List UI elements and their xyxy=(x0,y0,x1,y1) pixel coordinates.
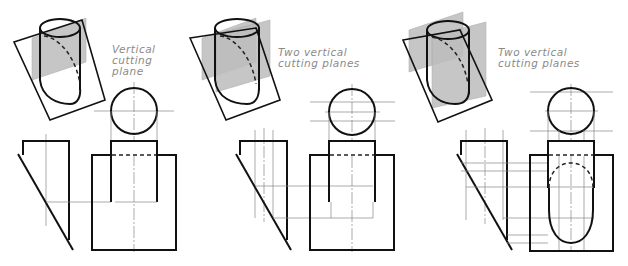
fig2-top-view xyxy=(310,84,395,252)
fig3-front-view xyxy=(530,141,613,251)
fig1-caption-line-2: cutting xyxy=(112,55,152,65)
fig3-caption-line-2: cutting planes xyxy=(498,58,580,68)
fig1-caption-line-3: plane xyxy=(112,66,144,76)
fig3-pictorial xyxy=(403,12,492,122)
fig1-cut-ellipse xyxy=(40,80,80,104)
fig2-caption-line-1: Two vertical xyxy=(278,47,347,57)
fig3-top-view xyxy=(530,84,613,252)
fig1-side-view xyxy=(18,134,111,250)
fig2-caption-line-2: cutting planes xyxy=(278,58,360,68)
fig1-top-view xyxy=(94,82,174,252)
fig1-pictorial xyxy=(14,18,105,120)
fig2-pictorial xyxy=(190,18,280,120)
fig1-caption-line-1: Vertical xyxy=(112,44,156,54)
technical-drawing-canvas xyxy=(0,0,628,266)
fig3-caption-line-1: Two vertical xyxy=(498,47,567,57)
